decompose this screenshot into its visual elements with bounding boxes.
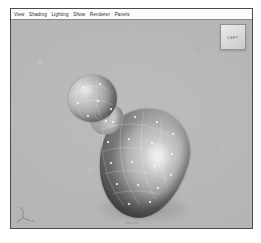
3d-viewport[interactable]: LEFT y x z persp (11, 20, 252, 229)
maya-viewport-window: View Shading Lighting Show Renderer Pane… (0, 0, 261, 243)
viewport-menubar: View Shading Lighting Show Renderer Pane… (11, 9, 252, 20)
viewport-panel: View Shading Lighting Show Renderer Pane… (10, 8, 253, 229)
view-cube-label: LEFT (227, 35, 238, 40)
svg-text:y: y (20, 206, 22, 210)
view-cube-icon[interactable]: LEFT (220, 24, 246, 50)
menu-item-panels[interactable]: Panels (115, 12, 130, 17)
menu-item-lighting[interactable]: Lighting (51, 12, 68, 17)
menu-item-shading[interactable]: Shading (29, 12, 47, 17)
camera-name-label: persp (11, 220, 252, 225)
budding-blob-model[interactable] (11, 20, 252, 229)
menu-item-view[interactable]: View (14, 12, 24, 17)
menu-item-show[interactable]: Show (73, 12, 85, 17)
menu-item-renderer[interactable]: Renderer (90, 12, 110, 17)
